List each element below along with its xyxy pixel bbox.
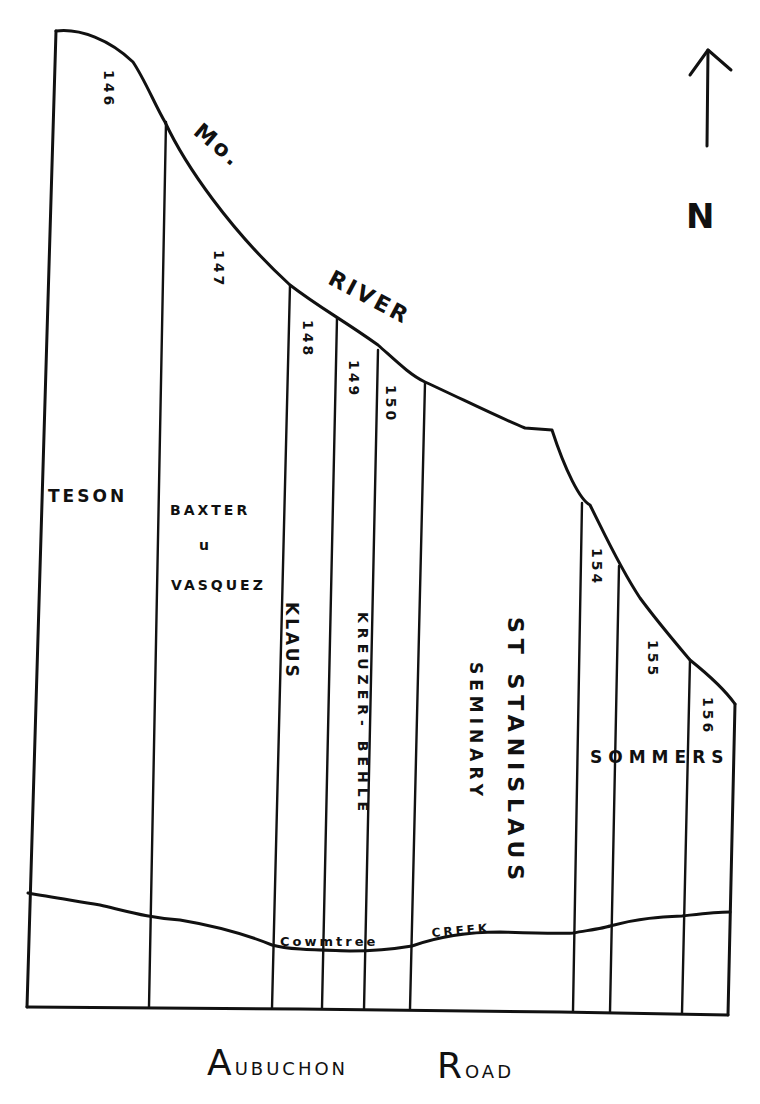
owner-baxter: Baxter <box>170 502 250 518</box>
river-label-mo: Mo. <box>189 118 247 172</box>
lot-line-150-seminary <box>410 383 425 1009</box>
north-arrow-icon <box>690 50 731 146</box>
owner-teson: Teson <box>48 486 127 506</box>
owner-sommers: Sommers <box>590 747 729 767</box>
lot-number-154: 154 <box>589 548 605 586</box>
north-label: N <box>686 196 717 236</box>
property-map: N Mo. River 146 147 148 149 150 154 155 … <box>0 0 760 1104</box>
lot-line-146-147 <box>149 122 166 1007</box>
owner-klaus: Klaus <box>282 602 302 680</box>
lot-number-155: 155 <box>645 640 661 678</box>
lot-number-150: 150 <box>383 385 399 423</box>
road-label-road: Road <box>437 1045 514 1086</box>
lot-line-148-149 <box>322 318 337 1008</box>
west-boundary <box>27 31 56 1007</box>
owner-st-stanislaus: St Stanislaus <box>503 617 528 886</box>
owner-seminary: Seminary <box>466 662 486 801</box>
lot-line-seminary-154 <box>573 503 582 1011</box>
lot-number-147: 147 <box>211 250 227 288</box>
owner-kreuzer-behle: Kreuzer- Behle <box>355 612 371 816</box>
road-label-aubuchon: Aubuchon <box>207 1042 348 1083</box>
lot-number-149: 149 <box>346 360 362 398</box>
creek-label-creek: Creek <box>431 921 491 940</box>
lot-number-146: 146 <box>101 70 117 108</box>
creek-label-cowmtree: Cowmtree <box>280 934 378 949</box>
south-boundary <box>27 1007 728 1015</box>
cowmtree-creek <box>28 893 730 951</box>
lot-number-148: 148 <box>300 320 316 358</box>
lot-line-154-155 <box>610 566 619 1012</box>
owner-vasquez: Vasquez <box>171 577 266 593</box>
owner-baxter-and: u <box>199 537 212 553</box>
lot-line-155-156 <box>682 660 690 1013</box>
lot-number-156: 156 <box>700 697 716 735</box>
